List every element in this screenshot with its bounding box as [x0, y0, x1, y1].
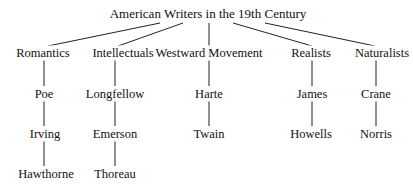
writer-harte: Harte [194, 87, 224, 102]
writer-irving: Irving [29, 127, 62, 142]
group-romantics: Romantics [15, 46, 70, 61]
group-realists: Realists [290, 46, 332, 61]
diagram-title: American Writers in the 19th Century [109, 6, 308, 22]
writer-poe: Poe [34, 87, 55, 102]
writer-james: James [296, 87, 329, 102]
writer-emerson: Emerson [92, 127, 138, 142]
writer-howells: Howells [289, 127, 333, 142]
writer-crane: Crane [360, 87, 392, 102]
group-westward-movement: Westward Movement [155, 46, 264, 61]
writer-thoreau: Thoreau [93, 167, 137, 182]
group-naturalists: Naturalists [354, 46, 410, 61]
writer-norris: Norris [359, 127, 393, 142]
writer-twain: Twain [192, 127, 225, 142]
writer-hawthorne: Hawthorne [17, 167, 75, 182]
writer-longfellow: Longfellow [85, 87, 145, 102]
group-intellectuals: Intellectuals [91, 46, 154, 61]
